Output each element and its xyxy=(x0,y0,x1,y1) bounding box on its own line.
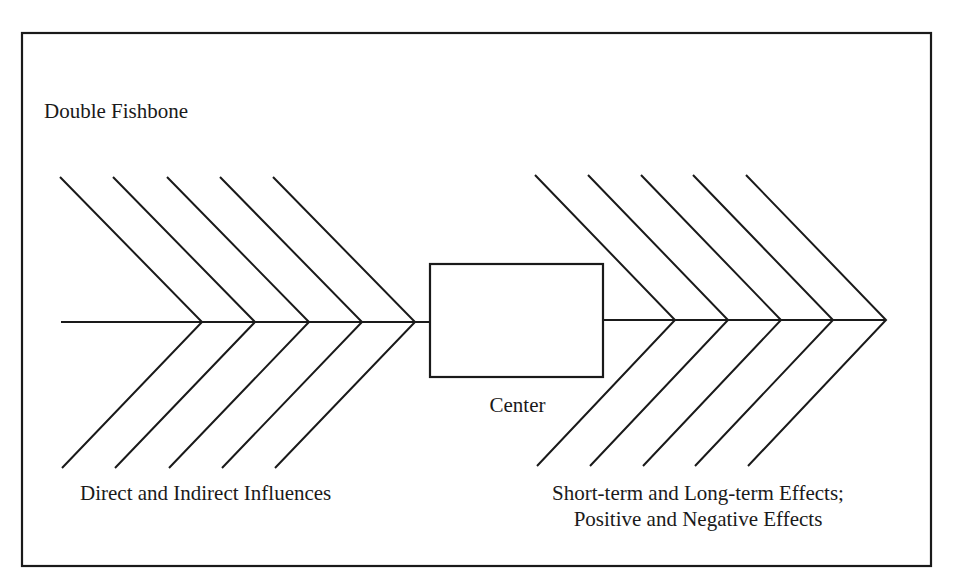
center-box xyxy=(430,264,603,377)
right-side-label-line-2: Positive and Negative Effects xyxy=(503,506,893,532)
diagram-title: Double Fishbone xyxy=(44,98,188,124)
center-label: Center xyxy=(431,392,604,418)
right-side-label-line-1: Short-term and Long-term Effects; xyxy=(503,480,893,506)
left-side-label: Direct and Indirect Influences xyxy=(80,480,331,506)
right-side-label: Short-term and Long-term Effects; Positi… xyxy=(503,480,893,532)
